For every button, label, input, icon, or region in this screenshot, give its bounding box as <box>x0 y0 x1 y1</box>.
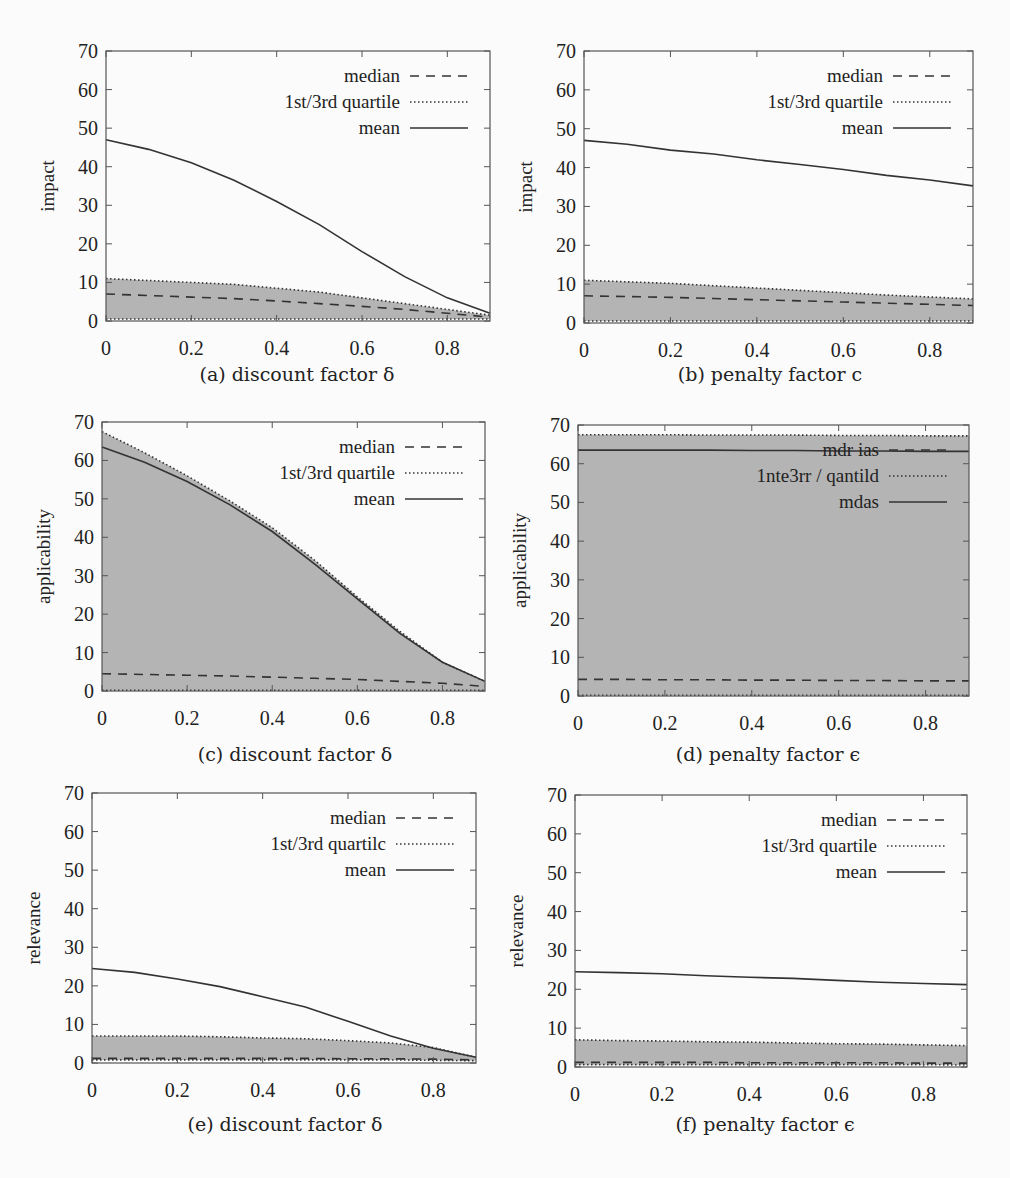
y-tick-label: 10 <box>547 1017 567 1039</box>
chart-caption: (f) penalty factor ϵ <box>615 1113 915 1135</box>
iqr-band <box>575 1040 967 1065</box>
y-tick-label: 30 <box>547 939 567 961</box>
mean-line <box>575 972 967 985</box>
y-axis-label: relevance <box>506 895 527 968</box>
x-tick-label: 0.8 <box>911 1083 936 1105</box>
y-tick-label: 50 <box>547 862 567 884</box>
legend-label: 1st/3rd quartile <box>761 835 877 856</box>
x-tick-label: 0.6 <box>824 1083 849 1105</box>
y-tick-label: 20 <box>547 978 567 1000</box>
y-tick-label: 60 <box>547 823 567 845</box>
y-tick-label: 70 <box>547 784 567 806</box>
chart-f: 01020304050607000.20.40.60.8relevancemed… <box>0 0 1010 1178</box>
x-tick-label: 0.2 <box>650 1083 675 1105</box>
x-tick-label: 0.4 <box>737 1083 762 1105</box>
legend-label: median <box>821 809 877 830</box>
y-tick-label: 40 <box>547 901 567 923</box>
legend-label: mean <box>836 861 878 882</box>
y-tick-label: 0 <box>557 1056 567 1078</box>
x-tick-label: 0 <box>570 1083 580 1105</box>
